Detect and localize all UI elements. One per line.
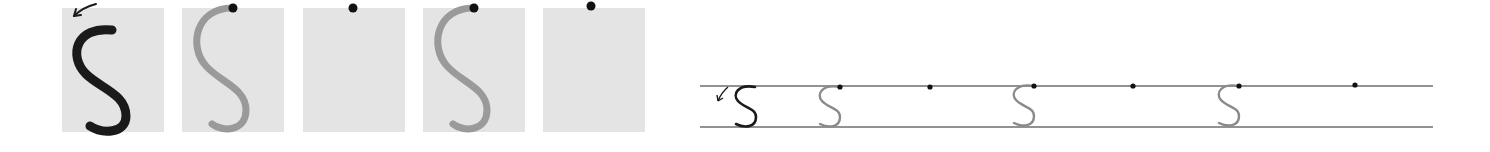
start-dot-icon	[349, 4, 358, 13]
start-dot-icon	[927, 84, 932, 89]
start-dot-icon	[470, 4, 479, 13]
start-dot-icon	[837, 84, 842, 89]
start-dot-icon	[229, 4, 238, 13]
start-dot-icon	[1352, 82, 1357, 87]
letter-s-model-small	[717, 86, 756, 126]
start-dot-icon	[1130, 83, 1135, 88]
direction-arrow-icon	[718, 87, 728, 101]
start-dot-icon	[1031, 83, 1036, 88]
practice-box-trace-1[interactable]	[182, 8, 284, 132]
letter-s-trace-small	[1219, 83, 1242, 125]
handwriting-guide-row[interactable]	[700, 70, 1435, 140]
practice-box-blank-1[interactable]	[303, 8, 405, 132]
letter-s-trace-small	[820, 84, 843, 126]
practice-box-model	[62, 8, 164, 132]
practice-box-trace-2[interactable]	[423, 8, 525, 132]
direction-arrow-icon	[74, 4, 96, 16]
letter-s-model	[62, 8, 164, 132]
letter-s-trace-small	[1014, 83, 1037, 125]
start-dot-icon	[587, 2, 596, 11]
start-dot-icon	[1236, 83, 1241, 88]
letter-s-trace	[182, 8, 284, 132]
letter-s-trace	[423, 8, 525, 132]
practice-box-blank-2[interactable]	[543, 8, 645, 132]
